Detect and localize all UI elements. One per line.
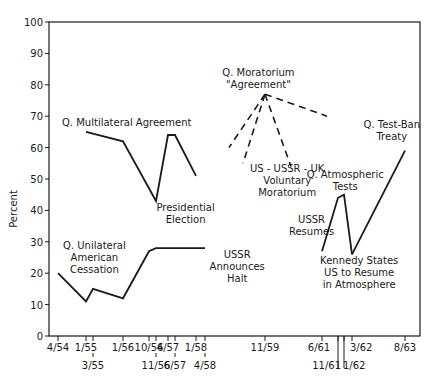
x-tick-label: 4/54 <box>47 342 69 353</box>
opinion-trend-chart: 0102030405060708090100 4/541/553/551/561… <box>0 0 439 392</box>
x-tick-label: 11/59 <box>251 342 280 353</box>
x-tick-label: 4/57 <box>157 342 179 353</box>
y-tick-label: 70 <box>30 111 43 122</box>
chart-annotation: Q. Multilateral Agreement <box>62 117 191 128</box>
x-tick-label: 1/56 <box>112 342 134 353</box>
x-tick-label: 8/63 <box>394 342 416 353</box>
y-tick-label: 90 <box>30 48 43 59</box>
x-axis: 4/541/553/551/5610/5611/564/576/571/584/… <box>47 336 416 371</box>
moratorium-dashed-line <box>229 94 265 147</box>
y-tick-label: 20 <box>30 268 43 279</box>
x-tick-label: 6/61 <box>308 342 330 353</box>
x-tick-label: 3/62 <box>350 342 372 353</box>
y-axis: 0102030405060708090100 <box>24 17 49 342</box>
chart-annotation: USSRResumes <box>289 214 334 237</box>
y-tick-label: 60 <box>30 143 43 154</box>
series-line-1 <box>86 132 196 201</box>
y-tick-label: 80 <box>30 80 43 91</box>
x-tick-label: 1/58 <box>185 342 207 353</box>
x-tick-label: 1/62 <box>343 360 365 371</box>
moratorium-dashed-line <box>243 94 265 163</box>
chart-annotation: Q. Test-BanTreaty <box>364 119 421 142</box>
y-tick-label: 0 <box>37 331 43 342</box>
x-tick-label: 3/55 <box>82 360 104 371</box>
moratorium-dashed-line <box>265 94 291 166</box>
series-line-4 <box>352 151 405 255</box>
y-tick-label: 10 <box>30 300 43 311</box>
annotations: Q. Multilateral AgreementPresidentialEle… <box>62 67 420 290</box>
y-tick-label: 100 <box>24 17 43 28</box>
moratorium-dashed-line <box>265 94 327 116</box>
y-tick-label: 50 <box>30 174 43 185</box>
chart-container: 0102030405060708090100 4/541/553/551/561… <box>0 0 439 392</box>
x-tick-label: 6/57 <box>164 360 186 371</box>
chart-annotation: USSRAnnouncesHalt <box>210 249 265 284</box>
chart-annotation: PresidentialElection <box>156 202 214 225</box>
y-tick-label: 30 <box>30 237 43 248</box>
chart-annotation: Q. Moratorium"Agreement" <box>222 67 294 90</box>
series-line-3 <box>322 195 352 255</box>
y-axis-title: Percent <box>8 190 19 228</box>
chart-annotation: Q. UnilateralAmericanCessation <box>63 240 126 275</box>
y-tick-label: 40 <box>30 205 43 216</box>
chart-annotation: Q. AtmosphericTests <box>307 169 384 192</box>
x-tick-label: 11/61 <box>312 360 341 371</box>
x-tick-label: 1/55 <box>75 342 97 353</box>
chart-annotation: Kennedy StatesUS to Resumein Atmosphere <box>320 255 398 290</box>
x-tick-label: 4/58 <box>194 360 216 371</box>
